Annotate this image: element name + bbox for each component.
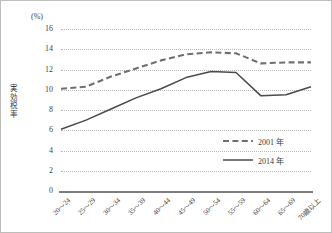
chart-figure: (%) 実効税率 1614121086420 20～2425～2930～3435… xyxy=(0,0,332,233)
legend-label-2001: 2001 年 xyxy=(258,136,284,147)
legend-label-2014: 2014 年 xyxy=(258,155,284,166)
y-tick-label: 2 xyxy=(29,166,53,175)
axis-baseline xyxy=(59,191,313,193)
legend-item-2014: 2014 年 xyxy=(223,153,315,167)
series-line-2001 xyxy=(61,52,311,88)
y-tick-label: 16 xyxy=(29,24,53,33)
y-tick-label: 0 xyxy=(29,186,53,195)
y-tick-label: 12 xyxy=(29,65,53,74)
y-tick-label: 6 xyxy=(29,125,53,134)
y-axis-title-char: 率 xyxy=(5,111,21,120)
y-tick-label: 10 xyxy=(29,85,53,94)
legend-swatch-solid xyxy=(223,155,253,165)
legend-swatch-dashed xyxy=(223,136,253,146)
x-axis-ticks: 20～2425～2930～3435～3940～4445～4950～5455～59… xyxy=(61,195,311,233)
y-tick-label: 4 xyxy=(29,146,53,155)
y-tick-label: 8 xyxy=(29,105,53,114)
chart-legend: 2001 年 2014 年 xyxy=(223,134,315,168)
y-axis-unit-label: (%) xyxy=(31,12,43,21)
series-line-2014 xyxy=(61,72,311,130)
y-axis-title: 実効税率 xyxy=(5,85,21,119)
y-tick-label: 14 xyxy=(29,44,53,53)
legend-item-2001: 2001 年 xyxy=(223,134,315,148)
